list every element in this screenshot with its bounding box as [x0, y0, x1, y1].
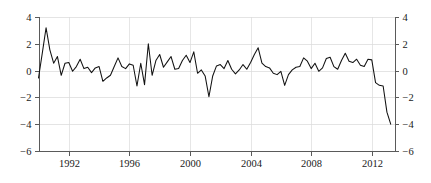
y-tick-label-left: 4 — [26, 12, 32, 23]
series-layer — [39, 28, 391, 124]
y-tick-label-left: −2 — [20, 92, 31, 103]
x-tick-label: 2004 — [241, 158, 263, 169]
tick-label-layer: 420−2−4−6420−2−4−61992199620002004200820… — [20, 12, 414, 169]
axes-layer — [35, 17, 399, 156]
y-tick-label-right: 0 — [403, 66, 408, 77]
grid-layer — [39, 17, 395, 152]
y-tick-label-left: −6 — [20, 146, 31, 157]
chart-container: 420−2−4−6420−2−4−61992199620002004200820… — [0, 0, 431, 183]
y-tick-label-left: −4 — [20, 119, 32, 130]
x-tick-label: 1996 — [119, 158, 140, 169]
y-tick-label-right: 4 — [403, 12, 409, 23]
y-tick-label-right: −4 — [403, 119, 415, 130]
x-tick-label: 1992 — [59, 158, 80, 169]
x-tick-label: 2000 — [180, 158, 201, 169]
x-tick-label: 2012 — [362, 158, 383, 169]
data-series-line — [39, 28, 391, 124]
y-tick-label-right: 2 — [403, 39, 408, 50]
time-series-chart: 420−2−4−6420−2−4−61992199620002004200820… — [0, 0, 431, 183]
x-tick-label: 2008 — [301, 158, 322, 169]
y-tick-label-right: −6 — [403, 146, 414, 157]
y-tick-label-right: −2 — [403, 92, 414, 103]
y-tick-label-left: 2 — [26, 39, 31, 50]
y-tick-label-left: 0 — [26, 66, 31, 77]
